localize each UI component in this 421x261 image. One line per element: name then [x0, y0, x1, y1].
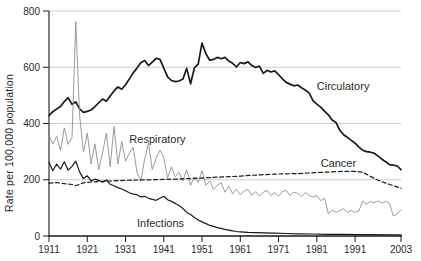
- x-tick-label-2003: 2003: [390, 244, 413, 255]
- mortality-rate-trends-chart: Rate per 100,000 population 020040060080…: [0, 0, 421, 261]
- x-tick-label-1961: 1961: [229, 244, 252, 255]
- y-tick-label-600: 600: [23, 62, 40, 73]
- y-tick-label-0: 0: [34, 231, 40, 242]
- y-tick-label-400: 400: [23, 118, 40, 129]
- x-tick-label-1991: 1991: [344, 244, 367, 255]
- series-respiratory-line: [49, 22, 401, 216]
- y-tick-label-800: 800: [23, 6, 40, 17]
- x-tick-label-1931: 1931: [114, 244, 137, 255]
- chart-canvas: 0200400600800191119211931194119511961197…: [0, 0, 421, 261]
- series-circulatory-line: [49, 43, 401, 170]
- x-tick-label-1971: 1971: [267, 244, 290, 255]
- series-label-cancer: Cancer: [321, 157, 357, 169]
- x-tick-label-1981: 1981: [306, 244, 329, 255]
- y-tick-label-200: 200: [23, 174, 40, 185]
- x-tick-label-1921: 1921: [76, 244, 99, 255]
- x-tick-label-1941: 1941: [153, 244, 176, 255]
- series-infections-line: [49, 161, 401, 235]
- x-tick-label-1911: 1911: [38, 244, 60, 255]
- series-label-respiratory: Respiratory: [129, 133, 186, 145]
- series-label-circulatory: Circulatory: [317, 80, 370, 92]
- x-tick-label-1951: 1951: [191, 244, 214, 255]
- series-label-infections: Infections: [137, 217, 185, 229]
